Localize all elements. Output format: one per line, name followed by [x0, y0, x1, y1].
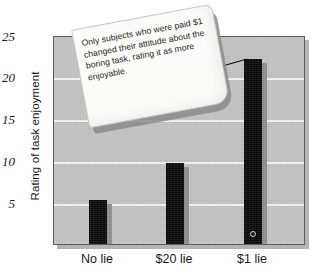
bar-chart-figure: Rating of task enjoyment 25 20 15 10 5 N… — [0, 0, 324, 280]
x-label-1-lie: $1 lie — [207, 252, 297, 266]
y-tick-15: 15 — [0, 112, 15, 128]
y-tick-5: 5 — [0, 196, 15, 212]
x-label-20-lie: $20 lie — [129, 252, 219, 266]
y-tick-20: 20 — [0, 70, 15, 86]
y-tick-25: 25 — [0, 29, 15, 45]
bar-mark-icon — [250, 231, 256, 237]
y-tick-10: 10 — [0, 154, 15, 170]
bar-no-lie — [89, 200, 107, 245]
bar-1-lie — [244, 59, 262, 245]
callout-text: Only subjects who were paid $1 changed t… — [81, 15, 215, 84]
y-axis-title: Rating of task enjoyment — [29, 41, 41, 231]
bar-20-lie — [166, 163, 184, 245]
callout: Only subjects who were paid $1 changed t… — [79, 16, 227, 128]
